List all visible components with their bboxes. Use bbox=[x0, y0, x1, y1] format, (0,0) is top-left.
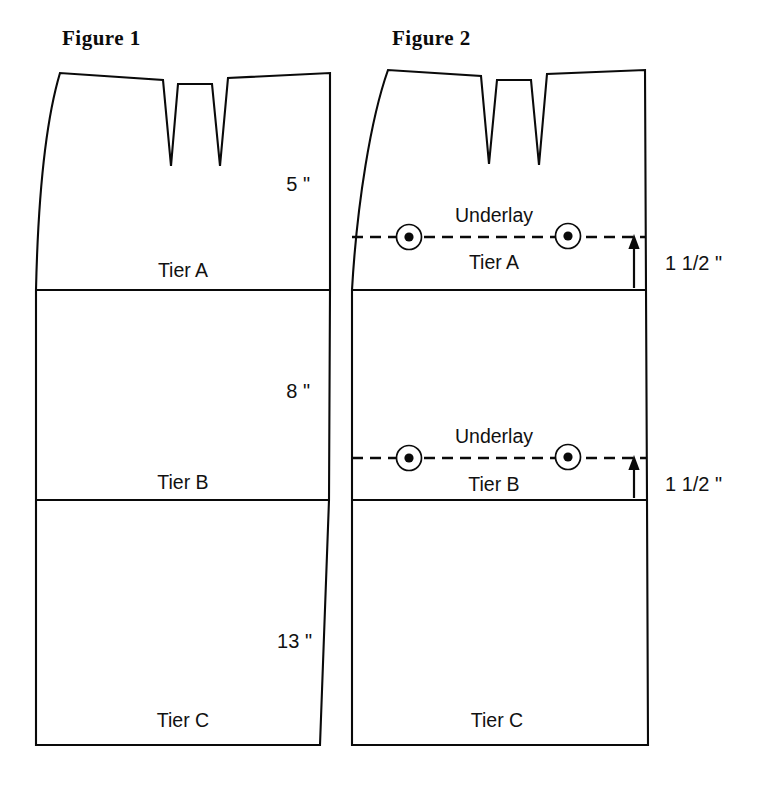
snap-button-icon bbox=[397, 225, 422, 250]
figure-2-tier-a-underlay-label: Underlay bbox=[455, 204, 533, 226]
figure-2-tier-b-offset: 1 1/2 " bbox=[665, 473, 722, 495]
figure-1-title: Figure 1 bbox=[62, 26, 141, 50]
figure-1-tier-a-label: Tier A bbox=[158, 259, 208, 281]
snap-button-icon bbox=[397, 446, 422, 471]
figure-1-tier-b-measurement: 8 " bbox=[286, 380, 310, 402]
sewing-pattern-diagram: Figure 1 Tier A Tier B Tier C 5 " 8 " 13… bbox=[0, 0, 760, 809]
figure-2-tier-b-underlay-label: Underlay bbox=[455, 425, 533, 447]
figure-1-tier-c-label: Tier C bbox=[157, 709, 209, 731]
snap-button-icon bbox=[556, 224, 581, 249]
figure-2-title: Figure 2 bbox=[392, 26, 471, 50]
figure-1-tier-a-measurement: 5 " bbox=[286, 173, 310, 195]
figure-1-tier-b-label: Tier B bbox=[157, 471, 208, 493]
snap-button-icon bbox=[556, 445, 581, 470]
diagram-canvas: Figure 1 Tier A Tier B Tier C 5 " 8 " 13… bbox=[0, 0, 760, 809]
figure-2-tier-c-label: Tier C bbox=[471, 709, 523, 731]
figure-2-tier-a-label: Tier A bbox=[469, 251, 519, 273]
figure-2-panel-outline bbox=[352, 70, 648, 745]
figure-2-tier-b-label: Tier B bbox=[468, 473, 519, 495]
figure-2-tier-a-offset: 1 1/2 " bbox=[665, 252, 722, 274]
figure-1-tier-c-measurement: 13 " bbox=[277, 630, 312, 652]
